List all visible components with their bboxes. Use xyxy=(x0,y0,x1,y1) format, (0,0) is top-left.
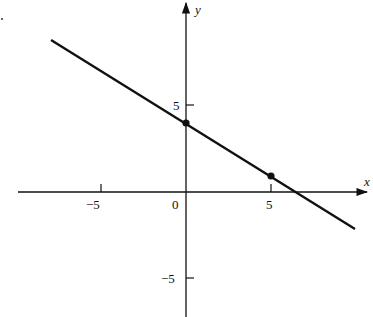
origin-label: 0 xyxy=(172,197,179,212)
x-tick-label-neg5: −5 xyxy=(86,197,100,212)
x-tick-label-5: 5 xyxy=(266,197,273,212)
y-axis-label: y xyxy=(193,2,201,17)
line-graph: −5 0 5 5 −5 x y xyxy=(0,0,373,317)
x-axis-label: x xyxy=(363,174,370,189)
y-tick-label-neg5: −5 xyxy=(161,271,175,286)
point-5-1 xyxy=(267,172,274,179)
point-0-4 xyxy=(182,119,189,126)
stray-dot xyxy=(1,18,3,20)
y-tick-label-5: 5 xyxy=(173,98,180,113)
